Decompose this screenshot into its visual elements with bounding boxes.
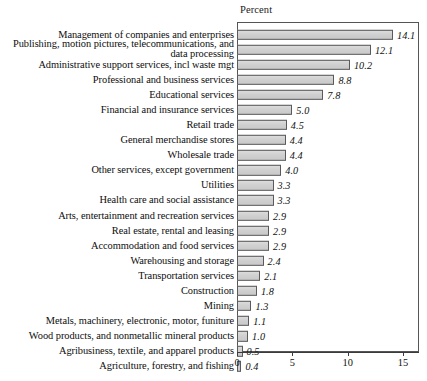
- bar: [237, 225, 269, 235]
- bar-category-label: Real estate, rental and leasing: [112, 225, 234, 236]
- bar-row: Educational services7.8: [0, 87, 427, 102]
- bar-category-label: Professional and business services: [93, 74, 234, 85]
- bar-category-label: Agribusiness, textile, and apparel produ…: [59, 346, 234, 357]
- bar-row: Other services, except government4.0: [0, 163, 427, 178]
- bar-row: Mining1.3: [0, 298, 427, 313]
- bar-row: Real estate, rental and leasing2.9: [0, 223, 427, 238]
- bar-value-label: 1.1: [253, 316, 266, 327]
- bar: [237, 165, 281, 175]
- bar-row: Administrative support services, incl wa…: [0, 57, 427, 72]
- bar-value-label: 7.8: [327, 89, 340, 100]
- bar-row: Utilities3.3: [0, 178, 427, 193]
- bar-value-label: 1.0: [252, 331, 265, 342]
- bar-row: Wood products, and nonmetallic mineral p…: [0, 329, 427, 344]
- bar: [237, 60, 350, 70]
- bar: [237, 256, 264, 266]
- bar-value-label: 8.8: [338, 74, 351, 85]
- bar-row: Metals, machinery, electronic, motor, fu…: [0, 314, 427, 329]
- bar-category-label: Arts, entertainment and recreation servi…: [58, 210, 234, 221]
- bar-value-label: 12.1: [375, 44, 393, 55]
- bar-category-label: Transportation services: [138, 271, 234, 282]
- bar-category-label: Wholesale trade: [168, 150, 234, 161]
- bar: [237, 316, 249, 326]
- bar-category-label: Accommodation and food services: [91, 240, 234, 251]
- x-axis-tick-label: 10: [342, 357, 352, 368]
- bar: [237, 75, 334, 85]
- bar: [237, 331, 248, 341]
- bar: [237, 286, 257, 296]
- bar-value-label: 2.9: [273, 210, 286, 221]
- bar-category-label: Administrative support services, incl wa…: [38, 59, 234, 70]
- bar-category-label: Utilities: [201, 180, 234, 191]
- bar: [237, 135, 286, 145]
- bar-row: Agriculture, forestry, and fishing0.4: [0, 359, 427, 374]
- bar-row: Arts, entertainment and recreation servi…: [0, 208, 427, 223]
- x-axis-tick-label: 5: [290, 357, 295, 368]
- bar-value-label: 3.3: [278, 180, 291, 191]
- bar-value-label: 4.4: [290, 150, 303, 161]
- bar-category-label: Mining: [204, 301, 234, 312]
- bar-row: Warehousing and storage2.4: [0, 253, 427, 268]
- bar-category-label: Construction: [181, 286, 234, 297]
- bar: [237, 120, 287, 130]
- bar-value-label: 5.0: [296, 104, 309, 115]
- bar-value-label: 4.4: [290, 135, 303, 146]
- bar: [237, 301, 251, 311]
- bar-category-label: Health care and social assistance: [99, 195, 234, 206]
- bar: [237, 150, 286, 160]
- bar-row: Publishing, motion pictures, telecommuni…: [0, 42, 427, 57]
- bar-category-label: Wood products, and nonmetallic mineral p…: [29, 331, 234, 342]
- bar-value-label: 14.1: [397, 29, 415, 40]
- bar-row: Professional and business services8.8: [0, 72, 427, 87]
- bar-category-label: Educational services: [149, 90, 234, 101]
- bar-category-label: General merchandise stores: [120, 135, 234, 146]
- bar-row: Transportation services2.1: [0, 268, 427, 283]
- bar-row: Health care and social assistance3.3: [0, 193, 427, 208]
- bar: [237, 271, 260, 281]
- bar-value-label: 10.2: [354, 59, 372, 70]
- x-axis-tick: [403, 352, 404, 356]
- bar-row: Construction1.8: [0, 283, 427, 298]
- bar: [237, 29, 393, 39]
- bar-category-label: Agriculture, forestry, and fishing: [99, 361, 234, 372]
- x-axis-tick: [237, 352, 238, 356]
- bar-category-label: Financial and insurance services: [101, 105, 234, 116]
- bar: [237, 210, 269, 220]
- bar-row: General merchandise stores4.4: [0, 133, 427, 148]
- x-axis-tick-label: 15: [398, 357, 408, 368]
- bar-category-label: Metals, machinery, electronic, motor, fu…: [46, 316, 234, 327]
- bar-row: Wholesale trade4.4: [0, 148, 427, 163]
- bar-value-label: 4.0: [285, 165, 298, 176]
- x-axis-line: [237, 352, 419, 353]
- bar-value-label: 0.4: [245, 361, 258, 372]
- x-axis-tick: [292, 352, 293, 356]
- bar-value-label: 2.4: [268, 255, 281, 266]
- bar-value-label: 1.8: [261, 285, 274, 296]
- bar: [237, 90, 323, 100]
- bar-value-label: 3.3: [278, 195, 291, 206]
- bar-rows: Management of companies and enterprises1…: [0, 0, 427, 381]
- bar-value-label: 4.5: [291, 120, 304, 131]
- x-axis-tick-label: 0: [234, 357, 239, 368]
- bar: [237, 44, 371, 54]
- bar-category-label: Warehousing and storage: [130, 255, 234, 266]
- bar-value-label: 2.9: [273, 225, 286, 236]
- x-axis-tick: [348, 352, 349, 356]
- bar: [237, 180, 274, 190]
- bar-category-label: Retail trade: [186, 120, 234, 131]
- bar-value-label: 2.1: [264, 270, 277, 281]
- bar-chart: Percent Management of companies and ente…: [0, 0, 427, 381]
- bar-row: Financial and insurance services5.0: [0, 102, 427, 117]
- bar: [237, 105, 292, 115]
- bar: [237, 240, 269, 250]
- bar-row: Accommodation and food services2.9: [0, 238, 427, 253]
- bar-value-label: 1.3: [255, 300, 268, 311]
- bar-value-label: 2.9: [273, 240, 286, 251]
- bar-row: Retail trade4.5: [0, 117, 427, 132]
- bar: [237, 195, 274, 205]
- bar-category-label: Other services, except government: [91, 165, 234, 176]
